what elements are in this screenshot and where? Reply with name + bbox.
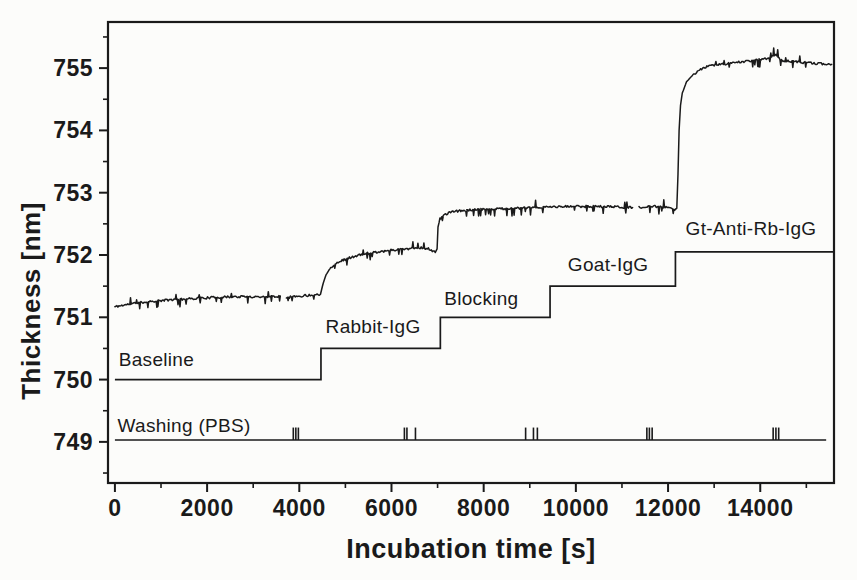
x-tick-label: 2000	[181, 495, 234, 521]
phase-label-blocking: Blocking	[444, 288, 518, 309]
x-tick-label: 0	[108, 495, 121, 521]
y-tick-label: 750	[53, 367, 93, 393]
washing-series: Washing (PBS)	[115, 415, 826, 440]
x-tick-label: 8000	[457, 495, 510, 521]
x-tick-label: 12000	[635, 495, 701, 521]
x-axis-title: Incubation time [s]	[346, 534, 596, 565]
y-tick-label: 752	[53, 242, 93, 268]
thickness-trace	[115, 48, 832, 309]
ellipsometry-chart: 7497507517527537547550200040006000800010…	[0, 0, 857, 580]
y-tick-label: 749	[53, 429, 93, 455]
y-tick-label: 755	[53, 55, 93, 81]
phase-label-gt-anti-rb-igg: Gt-Anti-Rb-IgG	[686, 218, 817, 239]
x-tick-label: 10000	[543, 495, 609, 521]
y-tick-label: 753	[53, 180, 93, 206]
phase-label-baseline: Baseline	[119, 349, 194, 370]
plot-canvas: 7497507517527537547550200040006000800010…	[0, 0, 857, 580]
y-tick-label: 751	[53, 304, 93, 330]
axis-ticks: 7497507517527537547550200040006000800010…	[53, 37, 806, 521]
y-tick-label: 754	[53, 117, 93, 143]
x-tick-label: 6000	[365, 495, 418, 521]
protocol-steps-line	[115, 252, 834, 380]
x-tick-label: 4000	[273, 495, 326, 521]
label-washing-pbs: Washing (PBS)	[118, 415, 251, 436]
phase-label-rabbit-igg: Rabbit-IgG	[326, 316, 421, 337]
phase-label-goat-igg: Goat-IgG	[568, 254, 649, 275]
y-axis-title: Thickness [nm]	[16, 202, 47, 400]
x-tick-label: 14000	[727, 495, 793, 521]
